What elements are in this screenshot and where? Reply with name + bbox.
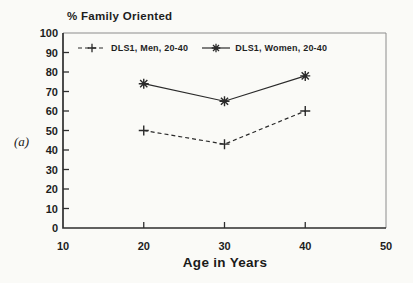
asterisk-marker-icon [139, 79, 149, 89]
legend: DLS1, Men, 20-40 DLS1, Women, 20-40 [77, 42, 327, 54]
y-tick-label: 80 [46, 66, 58, 78]
y-tick-label: 90 [46, 47, 58, 59]
x-tick-label: 50 [380, 240, 392, 252]
y-tick-label: 70 [46, 86, 58, 98]
plus-marker-icon [220, 139, 230, 149]
y-tick-label: 100 [40, 27, 58, 39]
x-tick-label: 20 [138, 240, 150, 252]
x-axis-ticks: 1020304050 [57, 222, 392, 252]
figure-container: % Family Oriented (a) 010203040506070809… [0, 0, 413, 283]
y-tick-label: 30 [46, 164, 58, 176]
plus-marker-icon [300, 106, 310, 116]
y-axis-ticks: 0102030405060708090100 [40, 27, 69, 234]
y-tick-label: 50 [46, 125, 58, 137]
x-tick-label: 10 [57, 240, 69, 252]
legend-label-men: DLS1, Men, 20-40 [111, 43, 188, 53]
legend-label-women: DLS1, Women, 20-40 [235, 43, 327, 53]
axes [63, 33, 386, 228]
y-tick-label: 60 [46, 105, 58, 117]
y-tick-label: 20 [46, 183, 58, 195]
legend-item-women: DLS1, Women, 20-40 [201, 42, 327, 54]
plot-frame [63, 33, 386, 228]
y-tick-label: 10 [46, 203, 58, 215]
dashed-plus-marker-icon [77, 42, 107, 54]
x-tick-label: 30 [218, 240, 230, 252]
y-tick-label: 40 [46, 144, 58, 156]
x-tick-label: 40 [299, 240, 311, 252]
solid-asterisk-marker-icon [201, 42, 231, 54]
series-markers-men [139, 106, 311, 149]
asterisk-marker-icon [300, 71, 310, 81]
legend-item-men: DLS1, Men, 20-40 [77, 42, 188, 54]
plus-marker-icon [139, 126, 149, 136]
x-axis-label: Age in Years [63, 255, 387, 270]
y-tick-label: 0 [52, 222, 58, 234]
asterisk-marker-icon [220, 96, 230, 106]
